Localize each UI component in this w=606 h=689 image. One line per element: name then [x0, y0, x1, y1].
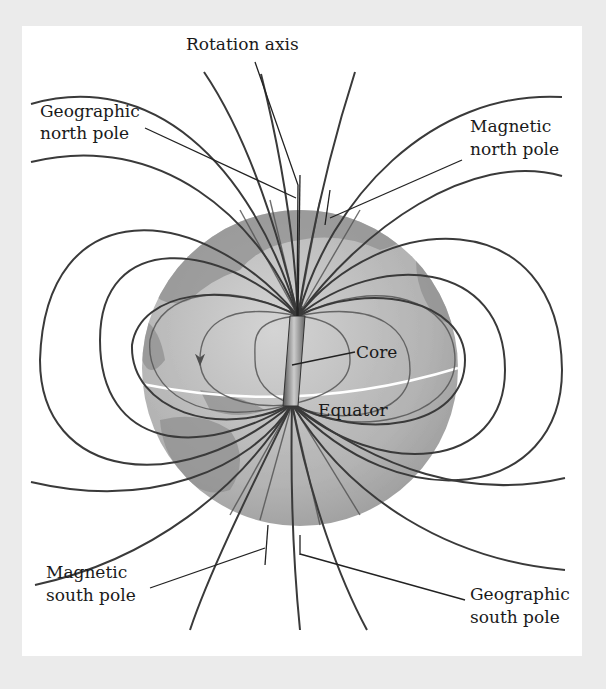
label-magnetic-north-2: north pole: [470, 139, 559, 159]
label-equator: Equator: [318, 400, 388, 420]
label-core: Core: [356, 342, 397, 362]
leader-geographic-north: [145, 128, 296, 198]
label-geographic-south-2: south pole: [470, 607, 560, 627]
label-magnetic-south-1: Magnetic: [46, 562, 127, 582]
label-magnetic-south-2: south pole: [46, 585, 136, 605]
label-geographic-south-1: Geographic: [470, 584, 570, 604]
label-magnetic-north-1: Magnetic: [470, 116, 551, 136]
leader-geographic-south: [300, 554, 465, 600]
magnetic-field-diagram: Rotation axis Geographic north pole Magn…: [0, 0, 606, 689]
label-geographic-north-1: Geographic: [40, 101, 140, 121]
label-rotation-axis: Rotation axis: [186, 34, 299, 54]
leader-magnetic-north: [330, 160, 462, 218]
label-geographic-north-2: north pole: [40, 123, 129, 143]
